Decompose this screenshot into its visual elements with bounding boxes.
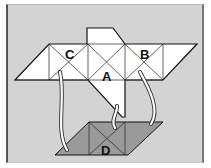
- label-a: A: [102, 69, 112, 84]
- net-diagram: C B A D: [0, 0, 211, 168]
- label-b: B: [140, 47, 149, 62]
- label-d: D: [101, 143, 110, 158]
- label-c: C: [65, 47, 75, 62]
